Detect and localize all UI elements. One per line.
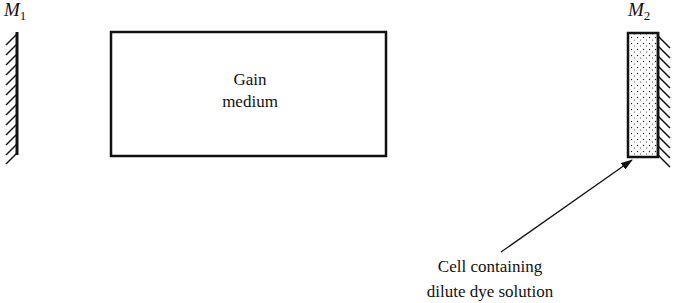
mirror-m2-hatching xyxy=(658,36,670,167)
mirror-m1-hatching xyxy=(6,34,17,164)
mirror-m2 xyxy=(658,32,670,167)
mirror-m1-label: M1 xyxy=(3,0,26,23)
callout-arrow xyxy=(501,160,632,252)
gain-medium-label-line2: medium xyxy=(222,92,278,111)
dye-cell-caption-line1: Cell containing xyxy=(438,257,543,276)
gain-medium-label-line1: Gain xyxy=(233,70,267,89)
dye-cell-caption-line2: dilute dye solution xyxy=(427,282,554,301)
mirror-m1 xyxy=(6,32,17,164)
mirror-m2-label: M2 xyxy=(627,0,650,23)
gain-medium-box: Gain medium xyxy=(111,32,386,156)
dye-cell xyxy=(628,33,658,157)
diagram-canvas: M1 Gain medium M2 xyxy=(0,0,687,303)
